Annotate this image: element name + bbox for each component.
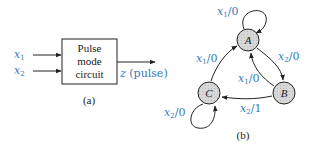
input-x2-label: x2 <box>14 64 25 78</box>
diagram-canvas: x1 x2 Pulse mode circuit z (pulse) (a) x… <box>0 0 310 149</box>
caption-a: (a) <box>83 94 96 107</box>
state-A: A <box>237 29 259 51</box>
part-a-block-diagram: x1 x2 Pulse mode circuit z (pulse) (a) <box>14 39 168 107</box>
edge-C-A-label: x1/0 <box>196 52 217 66</box>
state-C: C <box>198 82 220 104</box>
edge-B-C <box>222 96 272 99</box>
edge-A-A-label: x1/0 <box>217 5 238 19</box>
box-line-1: Pulse <box>78 42 102 54</box>
box-line-3: circuit <box>75 68 103 80</box>
edge-B-A-label: x1/0 <box>238 72 259 86</box>
box-line-2: mode <box>77 55 102 67</box>
part-b-state-diagram: x1/0 x2/0 x1/0 x2/1 x1/0 x2/0 A <box>164 5 299 142</box>
edge-C-C-label: x2/0 <box>164 106 185 120</box>
state-C-label: C <box>205 87 213 99</box>
edge-C-C <box>191 104 215 128</box>
state-B: B <box>273 82 295 104</box>
input-x1-label: x1 <box>14 48 25 62</box>
state-A-label: A <box>244 34 252 46</box>
output-z-label: z (pulse) <box>119 67 168 80</box>
edge-A-B-label: x2/0 <box>278 50 299 64</box>
state-B-label: B <box>281 87 288 99</box>
edge-B-C-label: x2/1 <box>240 102 261 116</box>
caption-b: (b) <box>237 129 250 142</box>
